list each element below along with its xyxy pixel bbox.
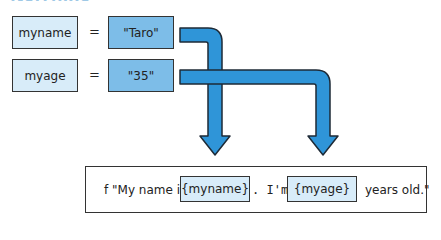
fstring-middle: . I'm: [252, 183, 288, 197]
arrow-myage-icon: [180, 70, 338, 155]
fstring-prefix: f "My name is: [104, 183, 186, 197]
placeholder-text: {myage}: [294, 182, 350, 196]
fstring-suffix: years old.": [365, 183, 429, 197]
arrow-myname-icon: [180, 28, 230, 155]
placeholder-myage: {myage}: [287, 176, 357, 202]
placeholder-text: {myname}: [181, 182, 249, 196]
placeholder-myname: {myname}: [180, 176, 250, 202]
